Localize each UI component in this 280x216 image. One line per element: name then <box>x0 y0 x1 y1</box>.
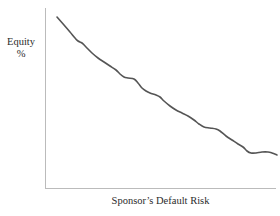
y-axis-label-line2: % <box>0 48 42 60</box>
x-axis-label: Sponsor’s Default Risk <box>45 194 276 207</box>
y-axis-label: Equity % <box>0 36 42 60</box>
y-axis-label-line1: Equity <box>7 36 35 47</box>
chart-plot-area <box>0 0 280 216</box>
chart-figure: Equity % Sponsor’s Default Risk <box>0 0 280 216</box>
equity-decline-curve <box>57 17 277 155</box>
